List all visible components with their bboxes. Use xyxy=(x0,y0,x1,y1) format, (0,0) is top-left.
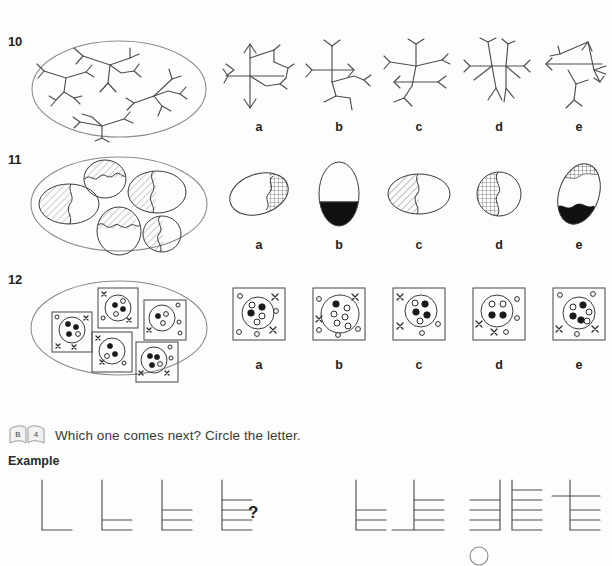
question-12-options: a xyxy=(222,272,612,382)
option-11-e-label: e xyxy=(540,238,612,252)
option-12-c-figure xyxy=(380,272,458,356)
option-10-e-label: e xyxy=(540,120,612,134)
option-12-e-label: e xyxy=(540,358,612,372)
section-instruction: B 4 Which one comes next? Circle the let… xyxy=(8,424,301,446)
option-12-b-figure xyxy=(300,272,378,356)
question-row-12: 12 xyxy=(0,272,612,382)
example-label: Example xyxy=(8,454,59,468)
option-10-a-figure xyxy=(220,34,298,118)
question-number-12: 12 xyxy=(8,272,22,287)
open-book-icon: B 4 xyxy=(8,424,46,446)
book-left-page-label: B xyxy=(15,430,20,439)
option-12-d-figure xyxy=(460,272,538,356)
option-11-a[interactable]: a xyxy=(220,152,298,252)
option-10-b[interactable]: b xyxy=(300,34,378,134)
option-11-d[interactable]: d xyxy=(460,152,538,252)
option-10-b-figure xyxy=(300,34,378,118)
question-row-10: 10 xyxy=(0,34,612,144)
option-10-a-label: a xyxy=(220,120,298,134)
option-12-e[interactable]: e xyxy=(540,272,612,372)
option-10-c-label: c xyxy=(380,120,458,134)
question-10-stimulus xyxy=(26,34,212,144)
option-11-b-figure xyxy=(300,152,378,236)
option-11-a-figure xyxy=(220,152,298,236)
question-row-11: 11 xyxy=(0,152,612,256)
option-12-a[interactable]: a xyxy=(220,272,298,372)
option-11-c[interactable]: c xyxy=(380,152,458,252)
option-10-d[interactable]: d xyxy=(460,34,538,134)
option-10-c[interactable]: c xyxy=(380,34,458,134)
option-12-b[interactable]: b xyxy=(300,272,378,372)
sequence-question-mark: ? xyxy=(248,503,258,523)
option-10-d-figure xyxy=(460,34,538,118)
option-10-c-figure xyxy=(380,34,458,118)
option-11-a-label: a xyxy=(220,238,298,252)
option-10-e[interactable]: e xyxy=(540,34,612,134)
circled-answer xyxy=(468,544,490,566)
instruction-text: Which one comes next? Circle the letter. xyxy=(55,428,301,443)
option-12-b-label: b xyxy=(300,358,378,372)
option-11-c-figure xyxy=(380,152,458,236)
option-11-b-label: b xyxy=(300,238,378,252)
option-11-b[interactable]: b xyxy=(300,152,378,252)
option-11-e[interactable]: e xyxy=(540,152,612,252)
option-12-d-label: d xyxy=(460,358,538,372)
question-number-11: 11 xyxy=(8,152,21,167)
option-12-c[interactable]: c xyxy=(380,272,458,372)
option-10-b-label: b xyxy=(300,120,378,134)
option-10-d-label: d xyxy=(460,120,538,134)
question-11-options: a b xyxy=(222,152,612,256)
question-11-stimulus xyxy=(26,152,212,256)
example-sequence xyxy=(30,476,260,538)
question-10-options: a xyxy=(222,34,612,144)
option-11-d-figure xyxy=(460,152,538,236)
question-number-10: 10 xyxy=(8,34,22,49)
option-12-c-label: c xyxy=(380,358,458,372)
option-11-d-label: d xyxy=(460,238,538,252)
question-12-stimulus xyxy=(26,272,212,384)
example-options xyxy=(352,476,602,538)
option-12-a-label: a xyxy=(220,358,298,372)
book-right-page-label: 4 xyxy=(34,430,39,439)
option-10-a[interactable]: a xyxy=(220,34,298,134)
option-12-d[interactable]: d xyxy=(460,272,538,372)
option-10-e-figure xyxy=(540,34,612,118)
option-12-a-figure xyxy=(220,272,298,356)
option-11-c-label: c xyxy=(380,238,458,252)
option-12-e-figure xyxy=(540,272,612,356)
option-11-e-figure xyxy=(540,152,612,236)
